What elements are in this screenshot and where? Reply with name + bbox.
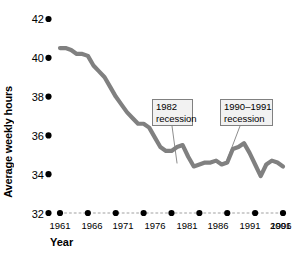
- x-tick-label-1971: 1971: [106, 220, 140, 231]
- x-tick-label-1976: 1976: [138, 220, 172, 231]
- y-tick-label-42: 42: [20, 13, 44, 25]
- y-tick-label-40: 40: [20, 52, 44, 64]
- x-tick-label-1986: 1986: [201, 220, 235, 231]
- x-tick-label-2001: 2001: [270, 220, 299, 231]
- y-tick-label-32: 32: [20, 208, 44, 220]
- x-tick-label-1966: 1966: [75, 220, 109, 231]
- x-axis-title: Year: [50, 236, 73, 248]
- chart-figure: Average weekly hours Year 42 40 38 36 34…: [0, 0, 299, 258]
- annotation-1990-1991-recession: 1990–1991 recession: [220, 99, 273, 126]
- y-tick-label-34: 34: [20, 169, 44, 181]
- annotation-1982-recession: 1982 recession: [152, 99, 193, 126]
- x-tick-label-1981: 1981: [170, 220, 204, 231]
- x-tick-label-1961: 1961: [43, 220, 77, 231]
- annotation-1982-line2: recession: [156, 113, 189, 125]
- x-tick-label-1991: 1991: [233, 220, 267, 231]
- y-axis-tick-dots: [45, 16, 51, 216]
- annotation-1990-1991-line2: recession: [224, 113, 269, 125]
- annotation-1990-1991-line1: 1990–1991: [224, 101, 269, 113]
- annotation-1982-line1: 1982: [156, 101, 189, 113]
- y-tick-label-36: 36: [20, 130, 44, 142]
- y-tick-label-38: 38: [20, 91, 44, 103]
